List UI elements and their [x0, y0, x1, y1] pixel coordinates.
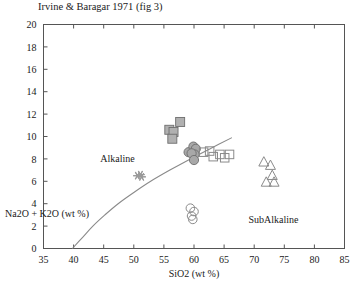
x-axis-tick-labels: 3540455055606570758085	[39, 254, 350, 265]
x-tick-label: 55	[159, 254, 169, 265]
y-tick-label: 2	[32, 221, 37, 232]
figure-container: Irvine & Baragar 1971 (fig 3) 3540455055…	[0, 0, 355, 286]
data-markers	[133, 117, 279, 223]
x-tick-label: 35	[39, 254, 49, 265]
x-tick-label: 60	[189, 254, 199, 265]
region-annotations: AlkalineSubAlkaline	[100, 153, 299, 224]
marker-triangle	[259, 157, 269, 166]
y-tick-label: 12	[27, 109, 37, 120]
x-tick-label: 45	[99, 254, 109, 265]
x-tick-label: 50	[129, 254, 139, 265]
annotation-alkaline: Alkaline	[100, 153, 135, 164]
series-open-circles	[186, 204, 198, 224]
series-filled-gray-squares	[165, 117, 185, 143]
y-tick-label: 6	[32, 176, 37, 187]
scatter-plot: 3540455055606570758085 02468101214161820…	[0, 0, 355, 286]
y-tick-label: 0	[32, 243, 37, 254]
y-axis-title: Na2O + K2O (wt %)	[5, 208, 89, 220]
marker-circle	[189, 155, 198, 164]
y-tick-label: 10	[27, 131, 37, 142]
x-tick-label: 40	[69, 254, 79, 265]
y-tick-label: 18	[27, 42, 37, 53]
y-tick-label: 20	[27, 19, 37, 30]
marker-square	[216, 150, 225, 159]
marker-circle	[186, 204, 195, 213]
y-tick-label: 16	[27, 64, 37, 75]
x-tick-label: 65	[219, 254, 229, 265]
marker-square	[176, 117, 185, 126]
series-open-squares	[199, 147, 233, 162]
series-gray-asterisks	[133, 171, 146, 181]
x-tick-label: 85	[340, 254, 350, 265]
marker-triangle	[267, 170, 277, 179]
annotation-subalkaline: SubAlkaline	[248, 214, 299, 225]
x-tick-label: 80	[309, 254, 319, 265]
marker-square	[209, 152, 218, 161]
x-tick-label: 75	[279, 254, 289, 265]
series-open-triangles	[259, 157, 279, 187]
marker-square	[168, 134, 177, 143]
marker-triangle	[265, 160, 275, 169]
x-axis-title: SiO2 (wt %)	[169, 268, 220, 280]
y-tick-label: 14	[27, 86, 37, 97]
y-tick-label: 8	[32, 154, 37, 165]
marker-square	[220, 154, 229, 163]
marker-square	[225, 150, 234, 159]
x-tick-label: 70	[249, 254, 259, 265]
